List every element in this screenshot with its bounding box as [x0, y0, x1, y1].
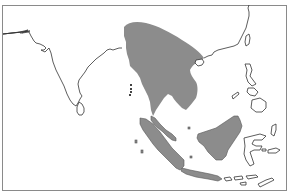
natuna-island [188, 127, 190, 129]
range-mainland-southeast-asia [124, 22, 204, 116]
range-java [181, 168, 222, 181]
sumba-island [240, 182, 246, 185]
sri-lanka-island [77, 102, 84, 115]
seram-island [268, 148, 280, 153]
philippines-luzon [245, 64, 256, 86]
hainan-island [195, 59, 204, 66]
halmahera-island [271, 124, 276, 136]
nias-island [135, 140, 137, 143]
bangka-island [190, 156, 192, 158]
mentawai-island [141, 150, 143, 153]
timor-island [258, 178, 274, 187]
buru-island [262, 149, 266, 151]
flores-island [246, 175, 258, 179]
philippines-mindanao [251, 98, 266, 112]
range-map [0, 0, 292, 196]
taiwan-island [245, 34, 250, 46]
south-china-coastline [204, 5, 249, 58]
bali-lombok-islands [224, 177, 232, 181]
india-coastline [3, 30, 122, 106]
range-borneo [197, 116, 242, 160]
sumbawa-island [234, 176, 243, 180]
philippines-visayas [247, 88, 258, 96]
andaman-islands [129, 84, 132, 96]
palawan-island [232, 92, 239, 99]
